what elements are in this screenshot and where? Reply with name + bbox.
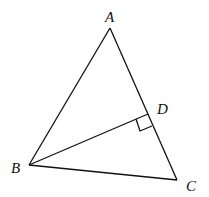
right-angle-marker [136, 119, 152, 131]
label-a: A [104, 9, 115, 25]
segment-ab [29, 28, 110, 165]
label-d: D [156, 101, 168, 117]
segment-bc [29, 165, 177, 180]
label-b: B [11, 160, 20, 176]
segment-bd [29, 114, 148, 165]
triangle-diagram: A B C D [0, 0, 209, 197]
label-c: C [186, 178, 197, 194]
